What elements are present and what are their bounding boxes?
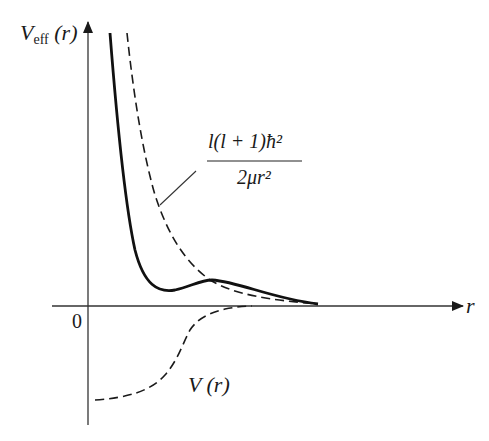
y-axis-label-main: V: [20, 20, 33, 45]
effective-potential-curve: [110, 33, 318, 304]
potential-label: V (r): [188, 372, 230, 398]
centrifugal-numerator: l(l + 1)ħ²: [208, 130, 282, 153]
origin-label: 0: [72, 310, 82, 333]
centrifugal-term-curve: [127, 33, 318, 304]
x-axis-label: r: [466, 293, 475, 319]
y-axis-label-subscript: eff: [33, 32, 48, 47]
y-axis-label-arg: (r): [54, 20, 77, 45]
y-axis-label: Veff (r): [20, 20, 77, 48]
label-leader-line: [160, 171, 196, 205]
centrifugal-denominator: 2μr²: [237, 166, 271, 189]
diagram-canvas: [0, 0, 489, 441]
